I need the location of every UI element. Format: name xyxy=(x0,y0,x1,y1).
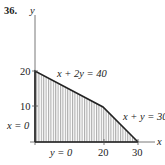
tick-label-y-10: 10 xyxy=(20,101,31,112)
x-axis-label: x xyxy=(156,136,162,147)
tick-label-x-30: 30 xyxy=(132,147,143,158)
feasible-region-graph: 36. y x 20 10 20 30 x + 2y = 40 x + y = … xyxy=(0,0,165,165)
label-y-equals-0: y = 0 xyxy=(49,147,73,158)
problem-number: 36. xyxy=(4,5,18,16)
label-x-plus-y-30: x + y = 30 xyxy=(122,111,165,122)
y-axis-label: y xyxy=(29,5,35,16)
tick-label-y-20: 20 xyxy=(20,66,31,77)
tick-label-x-20: 20 xyxy=(98,147,109,158)
label-x-equals-0: x = 0 xyxy=(6,120,30,131)
label-x-plus-2y-40: x + 2y = 40 xyxy=(56,68,107,79)
feasible-region xyxy=(35,71,138,142)
